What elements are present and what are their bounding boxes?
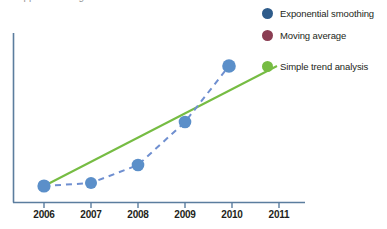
x-tick-label-2007: 2007 bbox=[80, 209, 101, 221]
data-point-2007 bbox=[85, 177, 97, 189]
legend-dot-icon-simple-trend-analysis bbox=[262, 61, 273, 72]
data-point-2006 bbox=[37, 179, 50, 192]
x-tick-label-2009: 2009 bbox=[174, 209, 195, 221]
data-point-2010 bbox=[222, 59, 236, 73]
series-line-simple-trend-analysis bbox=[44, 66, 277, 186]
x-tick-label-2011: 2011 bbox=[269, 209, 290, 221]
legend-item-moving-average[interactable]: Moving average bbox=[262, 24, 387, 46]
legend-dot-icon-exponential-smoothing bbox=[262, 8, 273, 19]
legend-label-simple-trend-analysis: Simple trend analysis bbox=[280, 61, 368, 72]
x-axis-ticks bbox=[44, 203, 279, 209]
x-tick-label-2010: 2010 bbox=[221, 209, 242, 221]
legend-item-exponential-smoothing[interactable]: Exponential smoothing bbox=[262, 2, 387, 24]
legend-item-simple-trend-analysis[interactable]: Simple trend analysis bbox=[262, 55, 387, 77]
data-point-2009 bbox=[179, 116, 192, 129]
chart-figure: clipped heading text bbox=[0, 0, 387, 229]
x-tick-label-2008: 2008 bbox=[127, 209, 148, 221]
legend-label-moving-average: Moving average bbox=[280, 30, 346, 41]
legend-dot-icon-moving-average bbox=[262, 30, 273, 41]
data-point-2008 bbox=[132, 159, 145, 172]
chart-legend: Exponential smoothing Moving average Sim… bbox=[262, 2, 387, 77]
series-markers-exponential-smoothing bbox=[37, 59, 235, 192]
x-tick-label-2006: 2006 bbox=[33, 209, 54, 221]
legend-label-exponential-smoothing: Exponential smoothing bbox=[280, 8, 374, 19]
